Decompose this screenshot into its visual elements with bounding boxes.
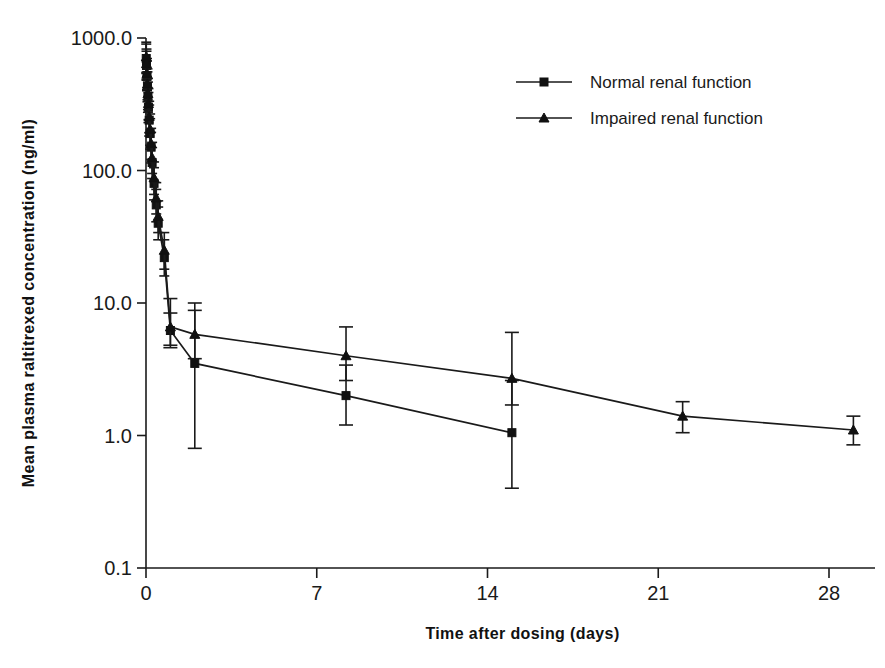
data-point-square: [342, 392, 350, 400]
x-axis-tick-label: 21: [647, 582, 669, 604]
x-axis-title: Time after dosing (days): [425, 625, 619, 642]
chart-svg: 1000.0100.010.01.00.107142128Time after …: [0, 0, 885, 668]
y-axis-tick-label: 1.0: [104, 425, 132, 447]
legend-marker-square: [540, 78, 548, 86]
y-axis-tick-label: 0.1: [104, 557, 132, 579]
legend-label: Impaired renal function: [590, 109, 763, 128]
legend-label: Normal renal function: [590, 73, 752, 92]
y-axis-tick-label: 10.0: [93, 292, 132, 314]
y-axis-tick-label: 100.0: [82, 160, 132, 182]
data-point-triangle: [153, 211, 163, 220]
chart-figure: 1000.0100.010.01.00.107142128Time after …: [0, 0, 885, 668]
data-point-square: [508, 429, 516, 437]
x-axis-tick-label: 0: [140, 582, 151, 604]
data-point-triangle: [147, 153, 157, 162]
x-axis-tick-label: 28: [818, 582, 840, 604]
data-point-square: [191, 359, 199, 367]
data-point-triangle: [159, 245, 169, 254]
y-axis-tick-label: 1000.0: [71, 27, 132, 49]
y-axis-title: Mean plasma raltitrexed concentration (n…: [20, 119, 37, 487]
x-axis-tick-label: 14: [476, 582, 498, 604]
x-axis-tick-label: 7: [311, 582, 322, 604]
series-line-normal: [146, 59, 512, 433]
